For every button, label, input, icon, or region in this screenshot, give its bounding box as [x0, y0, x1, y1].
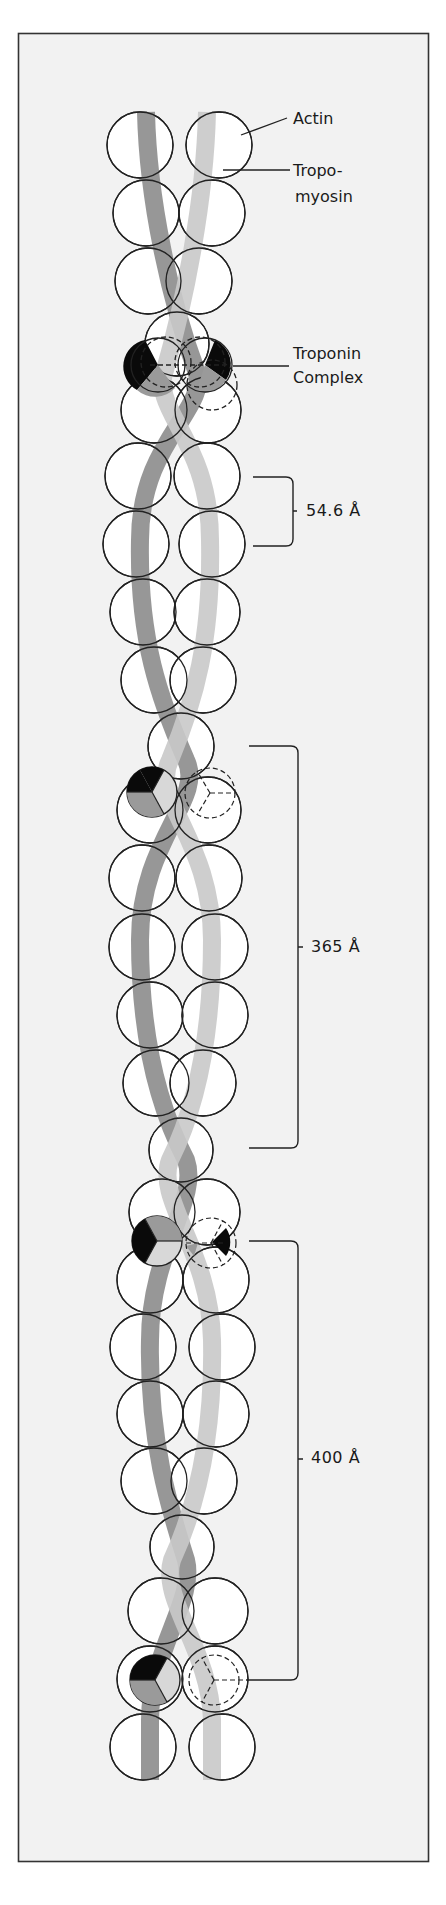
tropomyosin-label-line2: myosin	[295, 187, 353, 206]
troponin-label-line2: Complex	[293, 368, 363, 387]
actin-label: Actin	[293, 109, 333, 128]
actin-filament-diagram	[0, 0, 446, 1905]
measurement-54-6: 54.6 Å	[306, 501, 361, 520]
measurement-365: 365 Å	[311, 937, 360, 956]
measurement-400: 400 Å	[311, 1448, 360, 1467]
tropomyosin-label-line1: Tropo-	[293, 161, 342, 180]
troponin-label-line1: Troponin	[293, 344, 361, 363]
